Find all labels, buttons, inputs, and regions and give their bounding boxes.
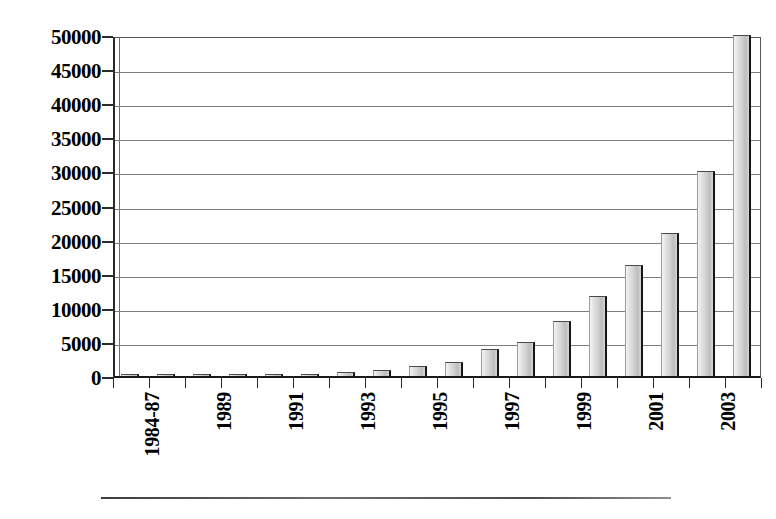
x-tick-mark [545,378,546,388]
x-tick-mark [581,378,582,388]
bar-2001 [625,265,643,376]
x-tick-label-2003: 2003 [717,392,740,431]
bar-1984-87 [121,374,139,376]
x-tick-mark [509,378,510,388]
y-tick-mark-40000 [102,104,113,106]
bar-1989 [193,374,211,376]
bar-slot [295,38,331,376]
y-tick-label-10000: 10000 [51,299,101,320]
y-tick-label-25000: 25000 [51,197,101,218]
bar-1992 [301,374,319,376]
bar-slot [223,38,259,376]
bar-1990 [229,374,247,376]
bottom-horizontal-rule [101,497,671,499]
x-tick-mark [185,378,186,388]
y-tick-label-0: 0 [91,368,101,389]
y-tick-label-5000: 5000 [61,333,101,354]
bar-slot [475,38,511,376]
plot-area [113,37,761,378]
y-tick-label-20000: 20000 [51,231,101,252]
y-tick-mark-35000 [102,138,113,140]
bar-chart-figure: 0500010000150002000025000300003500040000… [0,0,776,519]
bar-slot [331,38,367,376]
bar-1997 [481,349,499,376]
y-tick-mark-0 [102,377,113,379]
x-tick-mark [725,378,726,388]
x-tick-label-1984-87: 1984-87 [141,392,164,457]
x-tick-label-1991: 1991 [285,392,308,431]
y-tick-label-40000: 40000 [51,95,101,116]
y-tick-mark-15000 [102,275,113,277]
y-tick-label-50000: 50000 [51,27,101,48]
x-tick-mark [617,378,618,388]
x-tick-mark [761,378,762,388]
x-tick-mark [473,378,474,388]
x-tick-mark [113,378,114,388]
y-tick-label-30000: 30000 [51,163,101,184]
bar-1999 [553,321,571,376]
bar-slot [727,38,763,376]
y-tick-mark-30000 [102,172,113,174]
bar-slot [655,38,691,376]
bar-2000 [589,296,607,376]
bar-1991 [265,374,283,376]
bar-slot [691,38,727,376]
bar-slot [151,38,187,376]
bar-slot [547,38,583,376]
x-tick-mark [329,378,330,388]
y-axis: 0500010000150002000025000300003500040000… [0,0,113,400]
bar-2003 [697,171,715,376]
x-tick-mark [293,378,294,388]
bar-slot [511,38,547,376]
x-tick-label-1989: 1989 [213,392,236,431]
y-tick-mark-5000 [102,343,113,345]
bar-slot [115,38,151,376]
x-tick-mark [221,378,222,388]
bar-1998 [517,342,535,376]
x-tick-label-2001: 2001 [645,392,668,431]
x-tick-mark [257,378,258,388]
x-tick-label-1995: 1995 [429,392,452,431]
bar-1995 [409,366,427,376]
x-tick-label-1997: 1997 [501,392,524,431]
bar-series [115,38,760,376]
x-tick-mark [401,378,402,388]
x-tick-label-1993: 1993 [357,392,380,431]
y-tick-label-45000: 45000 [51,61,101,82]
x-tick-mark [689,378,690,388]
x-tick-mark [437,378,438,388]
bar-2002 [661,233,679,376]
bar-1993 [337,372,355,376]
y-tick-label-15000: 15000 [51,265,101,286]
y-tick-label-35000: 35000 [51,129,101,150]
bar-slot [367,38,403,376]
y-tick-mark-10000 [102,309,113,311]
bar-slot [619,38,655,376]
y-tick-mark-25000 [102,207,113,209]
x-tick-mark [365,378,366,388]
y-tick-mark-45000 [102,70,113,72]
bar-slot [439,38,475,376]
y-tick-mark-50000 [102,36,113,38]
bar-slot [187,38,223,376]
bar-1994 [373,370,391,376]
x-tick-mark [653,378,654,388]
y-tick-mark-20000 [102,241,113,243]
bar-slot [583,38,619,376]
bar-2004 [733,35,751,376]
bar-1996 [445,362,463,376]
bar-1988 [157,374,175,376]
x-tick-label-1999: 1999 [573,392,596,431]
bar-slot [403,38,439,376]
bar-slot [259,38,295,376]
x-tick-mark [149,378,150,388]
